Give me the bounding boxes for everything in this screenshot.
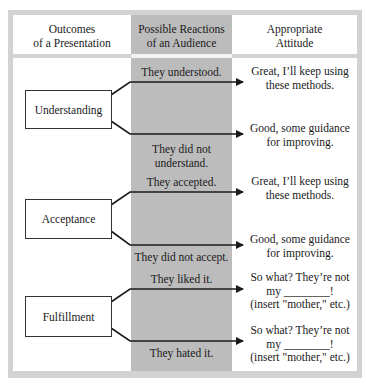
reaction-text-line2: understand. xyxy=(131,156,232,170)
attitude-text-line2: for improving. xyxy=(244,136,356,150)
reaction-text-line1: They did not xyxy=(131,142,232,156)
outcome-label: Fulfillment xyxy=(43,311,95,323)
attitude-text-line2: my ________! xyxy=(244,285,356,299)
attitude-text-line1: So what? They’re not xyxy=(244,271,356,285)
attitude-negative-acceptance: Good, some guidance for improving. xyxy=(244,233,356,260)
reaction-positive-acceptance: They accepted. xyxy=(131,175,232,189)
attitude-text-line2: my ________! xyxy=(244,338,356,352)
attitude-negative-fulfillment: So what? They’re not my ________! (inser… xyxy=(244,324,356,365)
outcome-box-fulfillment: Fulfillment xyxy=(25,296,112,337)
reaction-negative-acceptance: They did not accept. xyxy=(131,250,232,264)
reaction-positive-fulfillment: They liked it. xyxy=(131,272,232,286)
attitude-text-line2: these methods. xyxy=(244,79,356,93)
attitude-text-line1: Good, some guidance xyxy=(244,122,356,136)
attitude-text-line2: these methods. xyxy=(244,189,356,203)
reaction-negative-fulfillment: They hated it. xyxy=(131,346,232,360)
attitude-positive-acceptance: Great, I’ll keep using these methods. xyxy=(244,175,356,202)
attitude-negative-understanding: Good, some guidance for improving. xyxy=(244,122,356,149)
reaction-text: They understood. xyxy=(141,66,221,78)
reaction-text: They did not accept. xyxy=(135,251,229,263)
outcome-box-understanding: Understanding xyxy=(25,90,112,129)
attitude-text-line3: (insert "mother," etc.) xyxy=(244,298,356,312)
attitude-positive-understanding: Great, I’ll keep using these methods. xyxy=(244,65,356,92)
attitude-text-line1: So what? They’re not xyxy=(244,324,356,338)
attitude-positive-fulfillment: So what? They’re not my ________! (inser… xyxy=(244,271,356,312)
attitude-text-line2: for improving. xyxy=(244,247,356,261)
outcome-label: Acceptance xyxy=(42,213,96,225)
attitude-text-line3: (insert "mother," etc.) xyxy=(244,351,356,365)
outcome-box-acceptance: Acceptance xyxy=(25,199,112,239)
attitude-text-line1: Great, I’ll keep using xyxy=(244,175,356,189)
attitude-text-line1: Good, some guidance xyxy=(244,233,356,247)
reaction-text: They liked it. xyxy=(151,273,213,285)
reaction-negative-understanding: They did not understand. xyxy=(131,142,232,170)
reaction-positive-understanding: They understood. xyxy=(131,65,232,79)
reaction-text: They hated it. xyxy=(150,347,214,359)
outcome-label: Understanding xyxy=(35,104,103,116)
attitude-text-line1: Great, I’ll keep using xyxy=(244,65,356,79)
reaction-text: They accepted. xyxy=(147,176,217,188)
